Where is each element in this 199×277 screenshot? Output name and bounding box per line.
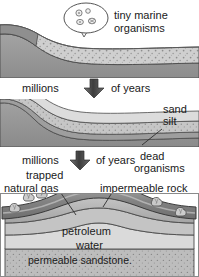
trapped-natural-gas-line1: trapped [26, 169, 63, 181]
petroleum-label: petroleum [62, 225, 111, 237]
dead-organisms-label-line1: dead [140, 150, 164, 162]
water-label: water [76, 239, 103, 251]
stage-1-cross-section [0, 0, 199, 78]
permeable-sandstone-label: permeable sandstone. [28, 254, 132, 266]
down-arrow-icon-1 [82, 78, 106, 99]
callout-balloon [64, 3, 108, 33]
stage-3-anticline-trap: petroleum water permeable sandstone. [0, 193, 199, 277]
dead-organisms-label-line2: organisms [134, 162, 185, 174]
silt-label: silt [163, 115, 176, 127]
sand-label: sand [163, 103, 187, 115]
time-arrow-1-right-text: of years [111, 82, 150, 94]
tiny-marine-organisms-line2: organisms [114, 22, 165, 34]
down-arrow-icon-2 [68, 150, 92, 171]
stage-1-seabed: tiny marine organisms [0, 0, 199, 78]
time-arrow-2-right-text: of years [96, 154, 135, 166]
tiny-marine-organisms-line1: tiny marine [114, 9, 168, 21]
time-arrow-1-left-text: millions [22, 82, 59, 94]
time-arrow-2-left-text: millions [22, 154, 59, 166]
stage-2-burial: sand silt [0, 99, 199, 147]
petroleum-formation-diagram: tiny marine organisms millions of years [0, 0, 199, 277]
